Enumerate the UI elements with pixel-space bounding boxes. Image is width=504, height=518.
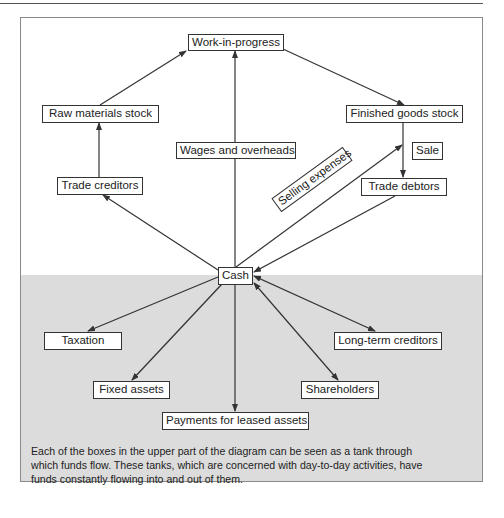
- node-long-term-creditors: Long-term creditors: [334, 332, 442, 350]
- node-cash: Cash: [218, 267, 253, 285]
- node-finished-goods-stock: Finished goods stock: [346, 105, 463, 123]
- node-taxation: Taxation: [44, 332, 122, 350]
- flow-arrows: [0, 0, 504, 518]
- caption-line: Each of the boxes in the upper part of t…: [31, 444, 471, 458]
- node-wages-and-overheads: Wages and overheads: [176, 142, 296, 159]
- node-payments-for-leased-assets: Payments for leased assets: [162, 412, 309, 430]
- node-trade-creditors: Trade creditors: [57, 177, 143, 195]
- diagram-caption: Each of the boxes in the upper part of t…: [31, 444, 471, 486]
- node-raw-materials-stock: Raw materials stock: [42, 105, 159, 123]
- node-trade-debtors: Trade debtors: [361, 178, 447, 196]
- caption-line: funds constantly flowing into and out of…: [31, 472, 471, 486]
- node-shareholders: Shareholders: [301, 381, 379, 399]
- node-fixed-assets: Fixed assets: [93, 381, 170, 399]
- label-sale: Sale: [412, 142, 443, 160]
- caption-line: which funds flow. These tanks, which are…: [31, 458, 471, 472]
- node-work-in-progress: Work-in-progress: [188, 34, 284, 51]
